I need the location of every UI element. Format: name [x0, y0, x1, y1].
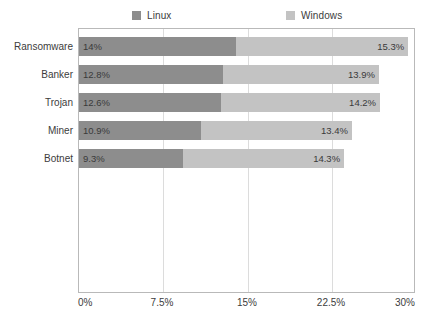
legend-label-linux: Linux	[147, 10, 171, 21]
category-label-trojan: Trojan	[0, 93, 73, 112]
bars-layer: 14%15.3%12.8%13.9%12.6%14.2%10.9%13.4%9.…	[79, 29, 414, 292]
x-tick-label-30: 30%	[395, 297, 415, 308]
bar-value-label: 13.9%	[344, 70, 379, 80]
bar-segment-linux[interactable]: 14%	[79, 37, 236, 56]
x-tick-label-75: 7.5%	[151, 297, 174, 308]
bar-segment-linux[interactable]: 12.6%	[79, 93, 221, 112]
bar-row[interactable]: 12.8%13.9%	[79, 65, 379, 84]
bar-value-label: 13.4%	[317, 126, 352, 136]
bar-segment-windows[interactable]: 13.9%	[223, 65, 379, 84]
legend-item-windows[interactable]: Windows	[286, 6, 342, 24]
bar-value-label: 9.3%	[79, 154, 109, 164]
bar-segment-windows[interactable]: 13.4%	[201, 121, 352, 140]
category-label-botnet: Botnet	[0, 149, 73, 168]
category-label-banker: Banker	[0, 65, 73, 84]
category-label-ransomware: Ransomware	[0, 37, 73, 56]
bar-segment-windows[interactable]: 15.3%	[236, 37, 408, 56]
bar-segment-linux[interactable]: 10.9%	[79, 121, 201, 140]
bar-row[interactable]: 10.9%13.4%	[79, 121, 352, 140]
plot-area: 14%15.3%12.8%13.9%12.6%14.2%10.9%13.4%9.…	[78, 28, 415, 293]
bar-value-label: 14.2%	[345, 98, 380, 108]
bar-segment-windows[interactable]: 14.3%	[183, 149, 344, 168]
bar-segment-windows[interactable]: 14.2%	[221, 93, 381, 112]
bar-value-label: 12.6%	[79, 98, 114, 108]
x-tick-label-225: 22.5%	[317, 297, 345, 308]
x-tick-label-15: 15%	[237, 297, 257, 308]
bar-segment-linux[interactable]: 12.8%	[79, 65, 223, 84]
legend-item-linux[interactable]: Linux	[132, 6, 171, 24]
chart-legend: Linux Windows	[78, 6, 415, 24]
bar-row[interactable]: 12.6%14.2%	[79, 93, 380, 112]
bar-value-label: 14.3%	[309, 154, 344, 164]
category-axis-labels: Ransomware Banker Trojan Miner Botnet	[0, 28, 73, 293]
bar-value-label: 15.3%	[373, 42, 408, 52]
bar-value-label: 10.9%	[79, 126, 114, 136]
bar-value-label: 12.8%	[79, 70, 114, 80]
legend-swatch-windows	[286, 11, 295, 20]
stacked-bar-chart: Linux Windows Ransomware Banker Trojan M…	[0, 0, 432, 324]
bar-row[interactable]: 9.3%14.3%	[79, 149, 344, 168]
category-label-miner: Miner	[0, 121, 73, 140]
bar-value-label: 14%	[79, 42, 106, 52]
legend-swatch-linux	[132, 11, 141, 20]
bar-row[interactable]: 14%15.3%	[79, 37, 408, 56]
x-tick-label-0: 0%	[78, 297, 92, 308]
value-axis-labels: 0% 7.5% 15% 22.5% 30%	[78, 297, 415, 313]
legend-label-windows: Windows	[301, 10, 342, 21]
bar-segment-linux[interactable]: 9.3%	[79, 149, 183, 168]
